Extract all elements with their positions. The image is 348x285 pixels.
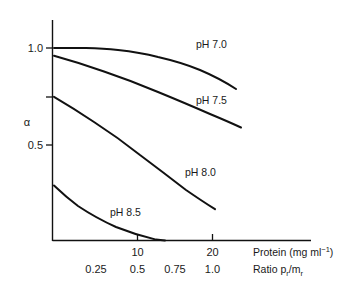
ratio-tick-label-0-25: 0.25 <box>85 263 106 275</box>
figure-root: α 1.0 0.5 10 20 0.25 0.5 0.75 1.0 Protei… <box>0 0 348 285</box>
ratio-tick-label-0-75: 0.75 <box>164 263 185 275</box>
curve-group <box>54 48 241 240</box>
y-tick-marks <box>46 48 53 145</box>
x-axis-title-ratio-main: Ratio p <box>253 263 286 275</box>
series-label-ph-8-5: pH 8.5 <box>110 206 141 218</box>
y-tick-label-1-0: 1.0 <box>28 42 43 54</box>
x-tick-label-10: 10 <box>131 246 143 258</box>
series-label-ph-7-0: pH 7.0 <box>196 38 227 50</box>
series-label-ph-8-0: pH 8.0 <box>185 166 216 178</box>
x-axis-title-protein-exponent: −1 <box>321 245 330 254</box>
series-label-ph-7-5: pH 7.5 <box>196 94 227 106</box>
x-axis-title-protein: Protein (mg ml−1) <box>253 245 333 258</box>
x-tick-label-20: 20 <box>206 246 218 258</box>
curve-ph-8-0 <box>54 97 215 209</box>
x-axis-title-ratio: Ratio pr/mr <box>253 263 303 278</box>
axis-group <box>53 20 312 241</box>
ratio-tick-label-0-5: 0.5 <box>130 263 145 275</box>
ratio-tick-label-1-0: 1.0 <box>205 263 220 275</box>
y-axis-label: α <box>24 116 31 128</box>
x-axis-title-ratio-sub-2: r <box>300 269 303 278</box>
curve-ph-7-0 <box>54 48 236 89</box>
x-axis-title-protein-main: Protein (mg ml <box>253 246 321 258</box>
curve-ph-7-5 <box>54 56 241 128</box>
x-axis-title-protein-close: ) <box>330 246 334 258</box>
x-axis-title-ratio-slash: /m <box>289 263 301 275</box>
y-tick-label-0-5: 0.5 <box>28 139 43 151</box>
alpha-vs-protein-chart: α 1.0 0.5 10 20 0.25 0.5 0.75 1.0 Protei… <box>0 0 348 285</box>
